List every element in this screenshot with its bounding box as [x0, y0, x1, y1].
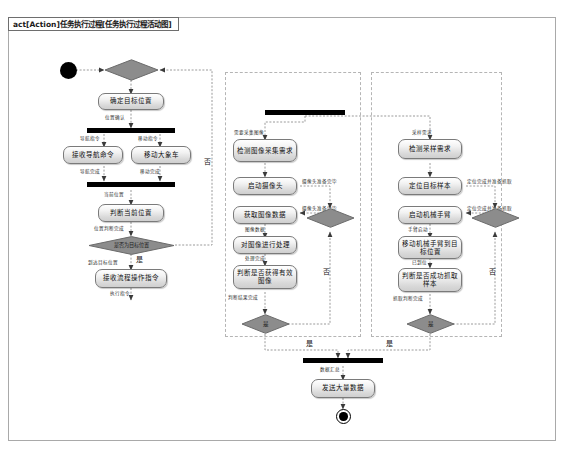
- final-node: [336, 409, 351, 424]
- decision-right-bottom[interactable]: 是: [406, 314, 455, 334]
- edge-label-need-capture: 需要采集图像: [234, 130, 264, 136]
- edge-label-mid-yes: 是: [306, 340, 313, 348]
- action-label: 启动机械手臂: [409, 211, 451, 220]
- action-receive-process-command[interactable]: 接收流程操作指令: [95, 269, 167, 288]
- diagram-frame-label: act[Action]任务执行过程[任务执行过程活动图]: [8, 17, 179, 31]
- decision-is-target-position[interactable]: 是否为目标位置: [88, 236, 175, 255]
- edge-label-data-merge: 数据汇总: [320, 367, 340, 373]
- edge-label-decision-yes: 是: [136, 256, 143, 264]
- edge-label-mid-no: 否: [323, 268, 330, 276]
- edge-label-camera-ready: 摄像头准备完毕: [302, 179, 337, 185]
- edge-label-confirm-to-fork: 位置确认: [105, 115, 125, 121]
- edge-label-decision-no: 否: [204, 158, 211, 166]
- action-start-camera[interactable]: 启动摄像头: [233, 177, 297, 195]
- action-label: 接收流程操作指令: [103, 274, 159, 283]
- decision-label: 是否为目标位置: [88, 241, 175, 248]
- action-start-robot-arm[interactable]: 启动机械手臂: [398, 206, 462, 224]
- edge-label-grab-judge-done: 抓取判断完成: [393, 296, 423, 302]
- action-label: 移动机械手臂到目标位置: [401, 240, 459, 256]
- action-label: 启动摄像头: [248, 182, 283, 191]
- action-label: 判断是否获得有效图像: [236, 269, 294, 285]
- edge-label-right-no: 否: [489, 268, 496, 276]
- action-move-arm-to-target[interactable]: 移动机械手臂到目标位置: [398, 236, 462, 259]
- action-label: 判断是否成功抓取样本: [401, 272, 459, 288]
- edge-label-reach-target: 到达目标位置: [88, 260, 118, 266]
- action-label: 对图像进行处理: [241, 241, 290, 250]
- action-label: 检测图像采集需求: [237, 147, 293, 155]
- action-label: 检测采样需求: [409, 145, 451, 154]
- edge-label-fork-move: 移动指令: [138, 136, 158, 142]
- edge-label-fork-nav: 导航指令: [80, 136, 100, 142]
- action-judge-current-position[interactable]: 判断当前位置: [98, 204, 164, 222]
- initial-node: [60, 62, 77, 79]
- action-confirm-target-position[interactable]: 确定目标位置: [98, 93, 164, 110]
- edge-label-locate-done: 定位完成并准备抓取: [467, 179, 512, 185]
- edge-label-nav-done: 导航完成: [80, 169, 100, 175]
- activity-diagram-canvas: act[Action]任务执行过程[任务执行过程活动图]: [0, 0, 565, 459]
- decision-top[interactable]: [104, 59, 159, 81]
- action-judge-sample-grabbed[interactable]: 判断是否成功抓取样本: [398, 268, 462, 292]
- edge-label-image-data: 图像数据: [245, 227, 265, 233]
- action-receive-navigation-command[interactable]: 接收导航命令: [63, 146, 123, 164]
- action-move-vehicle[interactable]: 移动大象车: [131, 146, 191, 164]
- action-label: 判断当前位置: [110, 209, 152, 218]
- action-detect-sampling-need[interactable]: 检测采样需求: [398, 139, 462, 159]
- action-detect-image-capture-need[interactable]: 检测图像采集需求: [233, 139, 297, 162]
- decision-label: 是: [406, 320, 455, 328]
- edge-label-judge-to-decision: 位置判断完成: [94, 226, 124, 232]
- edge-label-judge-result: 判断结果完成: [228, 295, 258, 301]
- action-label: 发送大量数据: [322, 384, 364, 393]
- join-bar-left: [87, 182, 175, 187]
- edge-label-exec-command: 执行指令: [110, 291, 130, 297]
- action-label: 获取图像数据: [244, 211, 286, 220]
- action-process-image[interactable]: 对图像进行处理: [233, 236, 297, 254]
- decision-right-top[interactable]: [471, 208, 520, 228]
- action-label: 接收导航命令: [72, 151, 114, 160]
- action-label: 确定目标位置: [110, 97, 152, 106]
- region-sampling: [371, 72, 502, 337]
- join-bar-bottom: [303, 358, 383, 363]
- action-label: 定位目标样本: [409, 182, 451, 191]
- edge-label-process-done: 处理完成: [245, 256, 265, 262]
- decision-label: 是: [241, 320, 290, 328]
- edge-label-right-yes: 是: [386, 340, 393, 348]
- action-judge-valid-image[interactable]: 判断是否获得有效图像: [233, 265, 297, 289]
- fork-bar-left: [87, 128, 175, 133]
- decision-middle-right[interactable]: [306, 208, 355, 228]
- edge-label-move-done: 移动完成: [140, 169, 160, 175]
- edge-label-arm-started: 手臂启动: [408, 227, 428, 233]
- final-node-inner: [339, 412, 347, 420]
- action-send-large-data[interactable]: 发送大量数据: [311, 379, 375, 398]
- fork-bar-middle: [265, 110, 345, 115]
- action-get-image-data[interactable]: 获取图像数据: [233, 206, 297, 224]
- edge-label-sampling-need: 采样需求: [412, 130, 432, 136]
- action-label: 移动大象车: [144, 151, 179, 160]
- edge-label-join-to-judge: 当前位置: [104, 192, 124, 198]
- decision-middle-bottom[interactable]: 是: [241, 314, 290, 334]
- edge-label-in-place: 已到位: [412, 260, 427, 266]
- action-locate-target-sample[interactable]: 定位目标样本: [398, 177, 462, 195]
